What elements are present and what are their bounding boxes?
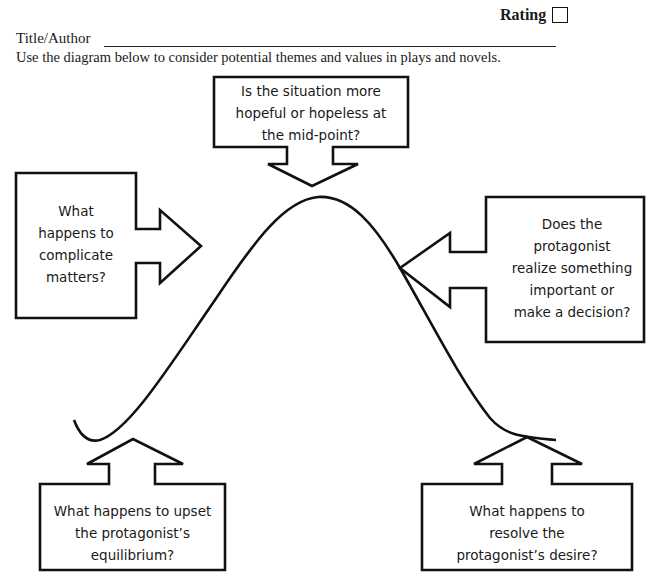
inciting-callout-text: What happens to upset the protagonist’s …: [40, 500, 225, 566]
resolution-callout-text: What happens to resolve the protagonist’…: [422, 500, 632, 566]
complication-line-1: What: [16, 200, 136, 222]
midpoint-callout-text: Is the situation more hopeful or hopeles…: [214, 80, 408, 146]
realization-line-1: Does the: [500, 213, 644, 235]
complication-line-4: matters?: [16, 266, 136, 288]
resolution-line-2: resolve the: [422, 522, 632, 544]
realization-line-5: make a decision?: [500, 301, 644, 323]
complication-line-2: happens to: [16, 222, 136, 244]
realization-line-2: protagonist: [500, 235, 644, 257]
plot-arc-curve: [74, 197, 556, 441]
complication-line-3: complicate: [16, 244, 136, 266]
midpoint-line-3: the mid-point?: [214, 124, 408, 146]
inciting-line-2: the protagonist’s: [40, 522, 225, 544]
realization-line-4: important or: [500, 279, 644, 301]
resolution-line-1: What happens to: [422, 500, 632, 522]
resolution-line-3: protagonist’s desire?: [422, 544, 632, 566]
realization-line-3: realize something: [500, 257, 644, 279]
inciting-line-1: What happens to upset: [40, 500, 225, 522]
inciting-line-3: equilibrium?: [40, 544, 225, 566]
midpoint-line-1: Is the situation more: [214, 80, 408, 102]
midpoint-line-2: hopeful or hopeless at: [214, 102, 408, 124]
realization-callout-text: Does the protagonist realize something i…: [500, 213, 644, 323]
complication-callout-text: What happens to complicate matters?: [16, 200, 136, 288]
